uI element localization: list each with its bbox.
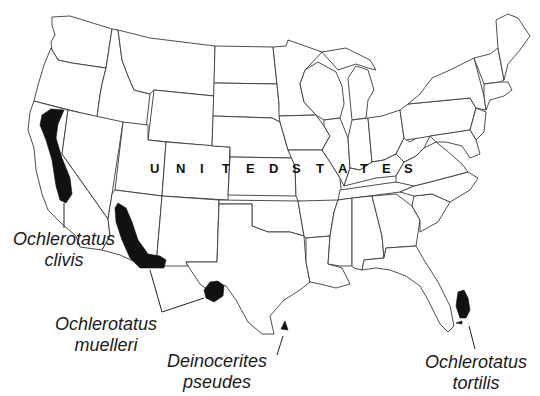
species-epithet: clivis — [4, 250, 124, 271]
leader-tortilis — [469, 326, 475, 349]
country-letter: A — [338, 161, 347, 176]
country-letter: S — [404, 161, 413, 176]
country-letter: T — [360, 161, 368, 176]
state-montana — [118, 30, 215, 96]
country-letter: N — [176, 161, 185, 176]
country-letter: S — [292, 161, 301, 176]
species-genus: Ochlerotatus — [416, 352, 536, 373]
range-tortilis-keys — [456, 321, 462, 324]
country-letter: T — [222, 161, 230, 176]
species-epithet: tortilis — [416, 373, 536, 394]
range-ochlerotatus-tortilis — [456, 290, 470, 318]
state-massachusetts-ct-ri — [484, 82, 512, 110]
species-genus: Ochlerotatus — [4, 229, 124, 250]
leader-pseudes — [277, 336, 283, 355]
state-north-dakota — [214, 46, 277, 84]
state-new-mexico — [156, 196, 219, 266]
country-letter: E — [382, 161, 391, 176]
state-florida — [362, 246, 454, 332]
country-letter: T — [316, 161, 324, 176]
range-deinocerites-pseudes — [281, 321, 288, 330]
state-wyoming — [148, 90, 214, 146]
state-iowa — [279, 115, 330, 150]
label-ochlerotatus-muelleri: Ochlerotatus muelleri — [46, 314, 166, 356]
country-letter: I — [200, 161, 204, 176]
species-genus: Ochlerotatus — [46, 314, 166, 335]
species-epithet: muelleri — [46, 335, 166, 356]
country-label: U N I T E D S T A T E S — [0, 161, 540, 181]
country-letter: U — [150, 161, 159, 176]
country-letter: D — [269, 161, 278, 176]
country-letter: E — [246, 161, 255, 176]
label-ochlerotatus-tortilis: Ochlerotatus tortilis — [416, 352, 536, 394]
label-ochlerotatus-clivis: Ochlerotatus clivis — [4, 229, 124, 271]
label-deinocerites-pseudes: Deinocerites pseudes — [162, 351, 272, 393]
species-epithet: pseudes — [162, 372, 272, 393]
species-genus: Deinocerites — [162, 351, 272, 372]
